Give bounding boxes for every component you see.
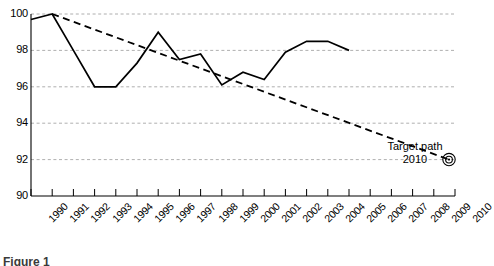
y-tick-label-96: 96: [2, 81, 28, 92]
y-tick-label-100: 100: [2, 8, 28, 19]
x-axis-ticks: [31, 189, 455, 196]
target-path-annotation-line2: 2010: [379, 153, 451, 166]
y-tick-label-98: 98: [2, 44, 28, 55]
y-axis-labels: 100 98 96 94 92 90: [0, 0, 28, 266]
y-tick-label-94: 94: [2, 117, 28, 128]
x-tick-label-2010: 2010: [470, 201, 493, 224]
figure-caption: Figure 1: [3, 256, 50, 266]
y-tick-label-92: 92: [2, 154, 28, 165]
target-path-annotation: Target path 2010: [379, 140, 451, 165]
target-path-annotation-line1: Target path: [379, 140, 451, 153]
y-tick-label-90: 90: [2, 190, 28, 201]
